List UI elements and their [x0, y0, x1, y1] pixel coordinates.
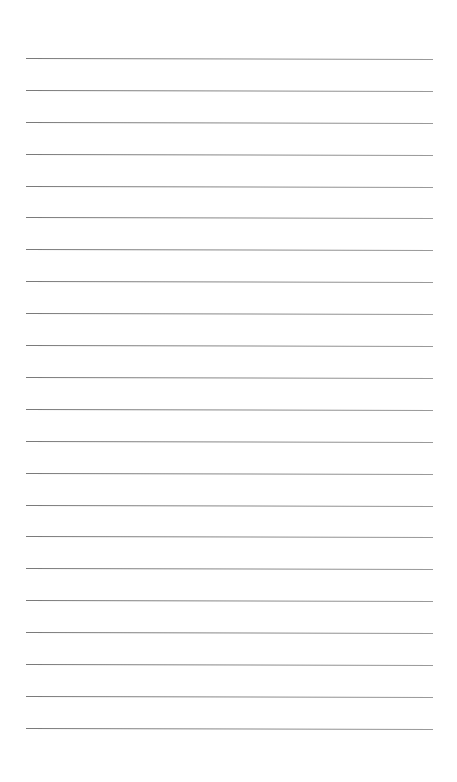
ruled-line	[26, 217, 433, 219]
ruled-line	[26, 90, 433, 92]
ruled-line	[26, 122, 433, 124]
ruled-line	[26, 249, 433, 251]
ruled-line	[26, 345, 433, 347]
ruled-line	[26, 696, 433, 698]
ruled-line	[26, 473, 433, 475]
ruled-line	[26, 728, 433, 730]
ruled-line	[26, 505, 433, 507]
ruled-line	[26, 632, 433, 634]
ruled-line	[26, 154, 433, 156]
lined-paper-page	[0, 0, 457, 782]
ruled-line	[26, 441, 433, 443]
ruled-line	[26, 186, 433, 188]
ruled-line	[26, 664, 433, 666]
ruled-line	[26, 568, 433, 570]
ruled-line	[26, 58, 433, 60]
ruled-line	[26, 281, 433, 283]
ruled-line	[26, 377, 433, 379]
ruled-line	[26, 600, 433, 602]
ruled-line	[26, 409, 433, 411]
ruled-line	[26, 536, 433, 538]
ruled-line	[26, 313, 433, 315]
